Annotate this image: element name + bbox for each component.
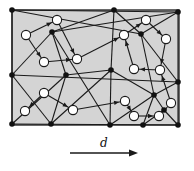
white-node (129, 64, 138, 73)
black-node (175, 122, 181, 128)
black-node (107, 122, 113, 128)
white-node (141, 15, 150, 24)
black-node (9, 7, 15, 13)
white-node (119, 30, 128, 39)
black-node (151, 92, 157, 98)
white-node (39, 88, 48, 97)
white-node (72, 54, 81, 63)
white-node (21, 30, 30, 39)
direction-label: d (100, 136, 108, 150)
white-node (129, 111, 138, 120)
black-node (138, 31, 144, 37)
arrowhead-icon (129, 150, 138, 157)
white-node (154, 111, 163, 120)
black-node (9, 72, 15, 78)
black-node (175, 79, 181, 85)
white-node (155, 65, 164, 74)
black-node (48, 121, 54, 127)
black-node (140, 122, 146, 128)
white-node (120, 96, 129, 105)
black-node (111, 7, 117, 13)
black-node (49, 29, 55, 35)
white-node (52, 15, 61, 24)
white-node (20, 106, 29, 115)
black-node (63, 72, 69, 78)
network-diagram: d (0, 0, 194, 171)
black-node (9, 121, 15, 127)
white-node (161, 34, 170, 43)
black-node (108, 67, 114, 73)
white-node (166, 98, 175, 107)
direction-indicator: d (70, 136, 138, 157)
white-node (39, 57, 48, 66)
black-node (175, 9, 181, 15)
white-node (68, 105, 77, 114)
